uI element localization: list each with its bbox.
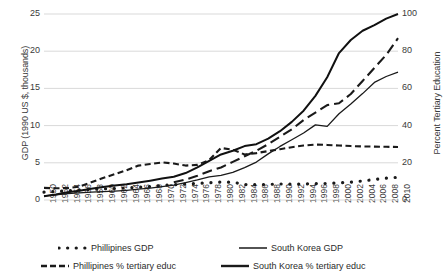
legend-swatch-solid-thick-icon <box>220 261 250 271</box>
legend-item[interactable]: South Korea GDP <box>238 243 343 253</box>
legend-swatch-solid-thin-icon <box>238 243 268 253</box>
series-line <box>174 38 398 182</box>
gridlines <box>44 14 398 200</box>
legend-swatch-dashed-icon <box>40 261 70 271</box>
legend-label: South Korea % tertiary educ <box>253 261 366 271</box>
legend: Phillipines GDPSouth Korea GDPPhillipine… <box>0 243 447 278</box>
legend-item[interactable]: South Korea % tertiary educ <box>220 261 366 271</box>
legend-label: Phillipines % tertiary educ <box>73 261 176 271</box>
chart-container: GDP (1990 US $, thousands) Percent Terti… <box>0 0 447 278</box>
legend-item[interactable]: Phillipines % tertiary educ <box>40 261 176 271</box>
series-line <box>44 14 398 196</box>
series-line <box>44 72 398 196</box>
plot-area <box>0 0 447 278</box>
legend-swatch-dotted-icon <box>58 243 88 253</box>
series-line <box>44 177 398 192</box>
legend-label: Phillipines GDP <box>91 243 154 253</box>
legend-item[interactable]: Phillipines GDP <box>58 243 154 253</box>
legend-label: South Korea GDP <box>271 243 343 253</box>
series-lines <box>44 14 398 196</box>
